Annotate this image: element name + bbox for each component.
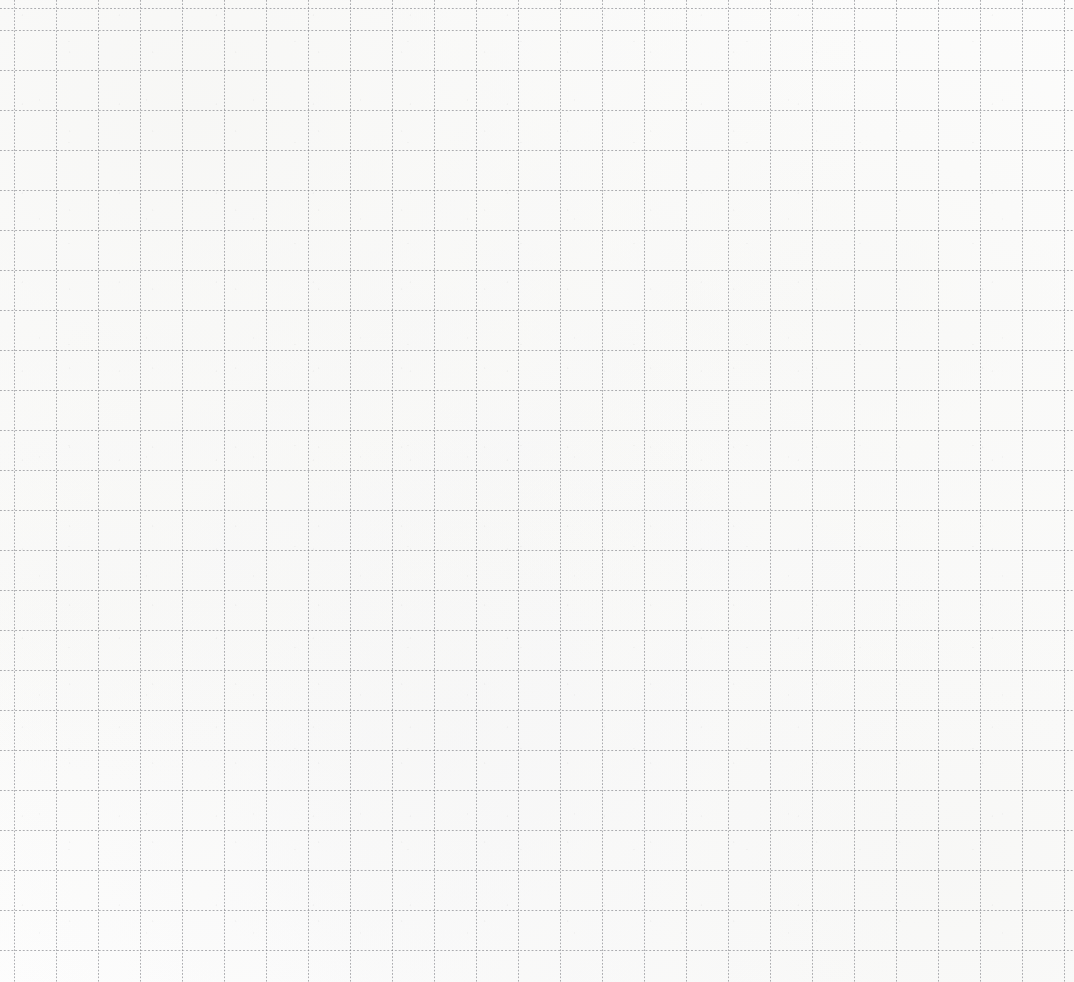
grid-vertical-lines	[0, 0, 1074, 982]
grid-paper-page	[0, 0, 1074, 982]
